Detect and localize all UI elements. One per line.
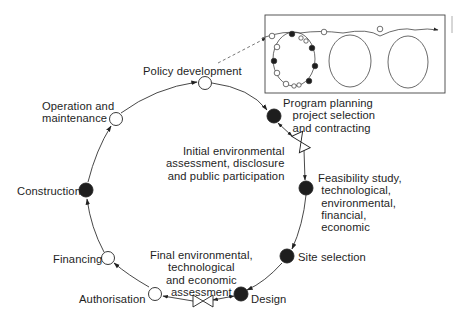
label-authorisation: Authorisation bbox=[79, 293, 146, 305]
label-final-environmental-assessment: Final environmental, technological and e… bbox=[150, 249, 253, 298]
project-cycle-diagram: Policy development Program planning proj… bbox=[0, 0, 466, 324]
label-feasibility-study: Feasibility study, technological, enviro… bbox=[318, 172, 402, 233]
label-operation-maintenance: Operation and maintenance bbox=[42, 100, 114, 125]
arrow-policy-to-program bbox=[212, 83, 267, 110]
arrow-initial-ea-to-feasibility bbox=[304, 150, 305, 180]
label-policy-development: Policy development bbox=[143, 65, 242, 77]
arrow-financing-to-construction bbox=[87, 199, 104, 252]
label-design: Design bbox=[251, 293, 286, 305]
label-site-selection: Site selection bbox=[298, 251, 366, 263]
label-program-planning: Program planning project selection and c… bbox=[283, 97, 375, 134]
label-initial-environmental-assessment: Initial environmental assessment, disclo… bbox=[166, 145, 284, 182]
node-initial-ea-bowtie-icon bbox=[292, 131, 310, 152]
arrow-authorisation-to-financing bbox=[114, 263, 149, 287]
arrow-construction-to-operation bbox=[88, 126, 111, 182]
inset-frame bbox=[265, 15, 445, 93]
node-site-filled-circle bbox=[280, 249, 294, 263]
inset-cycle-spiral bbox=[262, 15, 452, 93]
dashed-leader-to-inset bbox=[218, 38, 266, 63]
node-construction-filled-circle bbox=[79, 183, 93, 197]
arrow-feasibility-to-site bbox=[292, 195, 306, 249]
node-feasibility-filled-circle bbox=[299, 181, 313, 195]
node-policy-open-circle bbox=[199, 77, 212, 90]
node-financing-open-circle bbox=[102, 252, 115, 265]
label-financing: Financing bbox=[53, 253, 102, 265]
arrow-operation-to-policy bbox=[121, 82, 197, 113]
node-program-filled-circle bbox=[267, 109, 281, 123]
label-construction: Construction bbox=[17, 185, 81, 197]
